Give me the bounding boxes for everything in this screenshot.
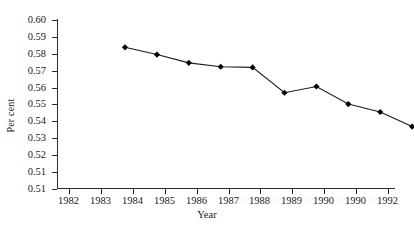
x-tick (324, 189, 325, 194)
y-tick-label: 0.57 (6, 66, 46, 76)
x-tick (388, 189, 389, 194)
y-tick-label: 0.51 (6, 184, 46, 194)
y-tick-label: 0.59 (6, 32, 46, 42)
plot-area (57, 19, 398, 188)
x-tick-label: 1992 (368, 195, 408, 206)
data-point (218, 64, 224, 70)
x-axis-title: Year (0, 209, 414, 220)
data-line (125, 47, 414, 141)
x-tick (197, 189, 198, 194)
data-point (313, 83, 319, 89)
data-markers (122, 44, 414, 144)
y-tick-label: 0.53 (6, 133, 46, 143)
x-tick (260, 189, 261, 194)
x-tick (292, 189, 293, 194)
y-tick (52, 189, 57, 190)
y-tick-label: 0.52 (6, 150, 46, 160)
y-tick-label: 0.51 (6, 167, 46, 177)
x-tick (69, 189, 70, 194)
data-point (377, 109, 383, 115)
data-point (409, 123, 414, 129)
data-point (122, 44, 128, 50)
y-tick-label: 0.60 (6, 15, 46, 25)
x-tick (133, 189, 134, 194)
data-point (186, 60, 192, 66)
line-chart: Per cent 0.600.590.580.570.560.550.540.5… (0, 0, 414, 231)
data-point (154, 51, 160, 57)
x-axis-line (57, 188, 395, 189)
x-tick (229, 189, 230, 194)
y-tick-label: 0.58 (6, 49, 46, 59)
x-tick (101, 189, 102, 194)
y-tick-label: 0.54 (6, 116, 46, 126)
data-point (345, 101, 351, 107)
x-tick (356, 189, 357, 194)
x-tick (165, 189, 166, 194)
y-tick-label: 0.55 (6, 99, 46, 109)
y-tick-label: 0.56 (6, 83, 46, 93)
